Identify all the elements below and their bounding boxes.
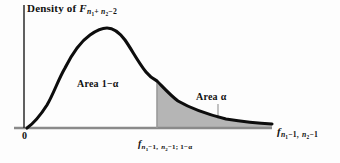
title-sub-mid: + n	[94, 7, 105, 16]
axis-subscript-group: n1−1,n2−1	[281, 130, 318, 139]
axis-sub-minus1b: −1	[309, 130, 318, 139]
critical-subscript-group: n1−1,n2−1; 1−α	[142, 143, 193, 151]
area-tail-annotation: Areaα	[196, 92, 227, 102]
axis-sub-2: 2	[306, 134, 309, 140]
area-tail-value: α	[221, 91, 227, 102]
title-symbol-F: F	[79, 2, 87, 14]
x-axis-variable-label: fn1−1,n2−1	[277, 126, 318, 137]
title-sub-index-2: 2	[105, 11, 108, 17]
title-sub-tail: −2	[108, 7, 117, 16]
density-curve	[27, 28, 272, 128]
critical-sub-n: n	[142, 143, 146, 151]
plot-title: Density ofFn1+ n2−2	[27, 3, 117, 14]
area-main-text: Area	[77, 78, 99, 89]
critical-sub-minus1: −1,	[148, 143, 158, 151]
alpha-tail-shaded-region	[157, 81, 272, 128]
title-sub-index-1: 1	[91, 11, 94, 17]
critical-sub-minus1b: −1; 1−α	[168, 143, 192, 151]
area-tail-text: Area	[196, 91, 218, 102]
title-prefix-text: Density of	[27, 2, 76, 14]
critical-sub-2: 2	[165, 147, 168, 152]
critical-sub-1: 1	[146, 147, 149, 152]
critical-value-label: fn1−1,n2−1; 1−α	[138, 139, 192, 149]
f-distribution-figure: Density ofFn1+ n2−2 Area1−α Areaα 0 fn1−…	[0, 0, 340, 163]
area-main-value: 1−α	[102, 78, 119, 89]
area-main-annotation: Area1−α	[77, 79, 119, 89]
origin-label: 0	[22, 131, 27, 141]
axis-sub-1: 1	[285, 134, 288, 140]
axis-sub-minus1: −1,	[288, 130, 299, 139]
title-subscript-group: n1+ n2−2	[87, 7, 117, 16]
